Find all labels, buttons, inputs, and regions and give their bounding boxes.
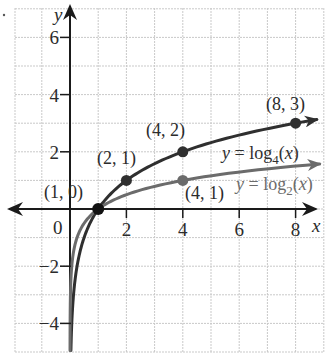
log-chart: x y 0 2468 642−2−4 y = log4(x) y = log2(… — [0, 0, 326, 353]
series-2-equation: y = log2(x) — [234, 174, 313, 198]
point-label-2-1: (2, 1) — [97, 148, 136, 169]
y-axis-label: y — [52, 4, 63, 25]
x-tick-label: 8 — [291, 219, 301, 240]
x-tick-label: 6 — [234, 219, 244, 240]
point-label-4-1: (4, 1) — [185, 183, 224, 204]
y-tick-label: 2 — [50, 142, 60, 163]
point-label-1-0: (1, 0) — [44, 182, 83, 203]
data-point — [121, 175, 132, 186]
origin-label: 0 — [53, 217, 63, 238]
x-tick-label: 4 — [178, 219, 188, 240]
y-tick-label: −2 — [39, 256, 59, 277]
stray-dot — [3, 14, 5, 16]
y-tick-label: −4 — [39, 313, 60, 334]
point-label-8-3: (8, 3) — [266, 94, 305, 115]
x-axis-label: x — [311, 215, 321, 236]
point-label-4-2: (4, 2) — [146, 120, 185, 141]
data-point — [92, 203, 104, 215]
series-1-equation: y = log4(x) — [220, 143, 299, 167]
data-point — [290, 118, 301, 129]
x-tick-label: 2 — [122, 219, 132, 240]
y-tick-label: 6 — [50, 27, 60, 48]
data-point — [177, 146, 188, 157]
y-tick-label: 4 — [50, 85, 60, 106]
